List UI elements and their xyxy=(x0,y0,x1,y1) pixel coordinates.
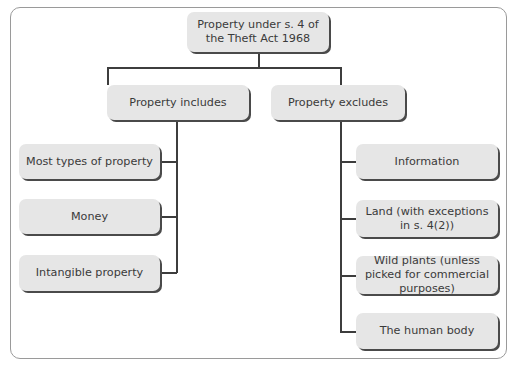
includes-item-intangible: Intangible property xyxy=(19,255,160,291)
includes-item-most-types: Most types of property xyxy=(19,144,160,179)
connector-includes-item-3 xyxy=(162,272,177,274)
excludes-item-human-body: The human body xyxy=(356,313,498,349)
excludes-item-land: Land (with exceptions in s. 4(2)) xyxy=(356,200,498,237)
connector-excludes-item-2 xyxy=(340,218,356,220)
connector-includes-down xyxy=(107,67,109,85)
connector-includes-vertical xyxy=(176,121,178,273)
connector-includes-item-1 xyxy=(162,161,177,163)
excludes-item-wild-plants: Wild plants (unless picked for commercia… xyxy=(356,256,498,294)
branch-property-excludes: Property excludes xyxy=(271,85,405,120)
connector-excludes-down xyxy=(340,67,342,85)
root-node: Property under s. 4 of the Theft Act 196… xyxy=(187,12,329,52)
includes-item-money: Money xyxy=(19,199,160,234)
excludes-item-information: Information xyxy=(356,144,498,179)
connector-excludes-item-3 xyxy=(340,275,356,277)
connector-excludes-vertical xyxy=(340,121,342,332)
connector-top-horizontal xyxy=(107,67,341,69)
connector-includes-item-2 xyxy=(162,216,177,218)
connector-excludes-item-1 xyxy=(340,161,356,163)
branch-property-includes: Property includes xyxy=(107,85,249,120)
connector-root-down xyxy=(258,53,260,68)
connector-excludes-item-4 xyxy=(340,331,356,333)
